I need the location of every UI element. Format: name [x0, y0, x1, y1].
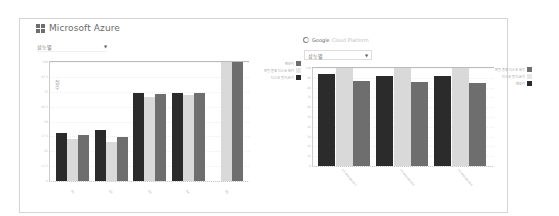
legend-item[interactable]: 파일·환경·디스크 처리	[495, 67, 532, 72]
y-tick-label: 60	[307, 105, 311, 109]
legend-swatch	[527, 67, 532, 72]
grid-line	[313, 166, 494, 167]
grid-line	[50, 181, 249, 182]
legend-item[interactable]: 메모리	[285, 61, 301, 66]
gcp-title-text: Google	[312, 37, 330, 43]
y-tick-label: 25	[44, 149, 48, 153]
bar[interactable]	[78, 135, 89, 181]
gcp-header: GoogleCloud Platform	[303, 37, 369, 43]
y-tick-label: 87.5	[41, 75, 48, 79]
bar[interactable]	[411, 82, 428, 166]
bar[interactable]	[221, 62, 232, 181]
legend-swatch	[527, 81, 532, 86]
y-tick-label: 62.5	[41, 105, 48, 109]
azure-legend: 메모리파일·환경·디스크 처리디스크 읽기/쓰기	[236, 61, 301, 80]
bar[interactable]	[353, 81, 370, 166]
google-cloud-logo-icon	[303, 37, 309, 43]
azure-bar-chart: 012.52537.55062.57587.5100점수A1A2A3A4A5	[49, 61, 249, 182]
bar[interactable]	[434, 76, 451, 166]
gcp-bar-chart: 0102030405060708090100점수n1-standard-1n1-…	[312, 67, 494, 167]
legend-item[interactable]: 디스크 읽기/쓰기	[502, 74, 532, 79]
bar[interactable]	[318, 74, 335, 166]
bar[interactable]	[106, 142, 117, 181]
bar[interactable]	[67, 139, 78, 181]
azure-metric-dropdown[interactable]: 성능별 ▼	[37, 42, 107, 52]
y-tick-label: 0	[309, 164, 311, 168]
legend-item[interactable]: 메모리	[516, 81, 532, 86]
y-tick-label: 70	[307, 95, 311, 99]
y-tick-label: 90	[307, 76, 311, 80]
grid-line	[50, 77, 249, 78]
bar[interactable]	[155, 94, 166, 181]
y-tick-label: 40	[307, 125, 311, 129]
bar[interactable]	[133, 93, 144, 181]
bar[interactable]	[194, 93, 205, 181]
y-tick-label: 50	[44, 120, 48, 124]
bar[interactable]	[336, 68, 353, 166]
y-tick-label: 100	[305, 66, 311, 70]
legend-label: 파일·환경·디스크 처리	[495, 68, 525, 72]
bar[interactable]	[117, 137, 128, 181]
y-tick-label: 30	[307, 135, 311, 139]
bar[interactable]	[95, 130, 106, 181]
gcp-legend: 파일·환경·디스크 처리디스크 읽기/쓰기메모리	[476, 67, 532, 86]
legend-swatch	[296, 61, 301, 66]
grid-line	[50, 62, 249, 63]
legend-item[interactable]: 디스크 읽기/쓰기	[271, 75, 301, 80]
azure-header: Microsoft Azure	[36, 23, 120, 33]
y-axis-label: 점수	[53, 80, 60, 90]
y-tick-label: 50	[307, 115, 311, 119]
legend-swatch	[296, 68, 301, 73]
legend-swatch	[296, 75, 301, 80]
legend-swatch	[527, 74, 532, 79]
legend-label: 파일·환경·디스크 처리	[264, 69, 294, 73]
bar[interactable]	[172, 93, 183, 181]
y-tick-label: 20	[307, 144, 311, 148]
gcp-subtitle: Cloud Platform	[332, 37, 369, 43]
gcp-dropdown-value: 성능별	[308, 52, 323, 59]
bar[interactable]	[452, 68, 469, 166]
grid-line	[50, 92, 249, 93]
legend-label: 디스크 읽기/쓰기	[502, 75, 525, 79]
legend-label: 디스크 읽기/쓰기	[271, 76, 294, 80]
bar[interactable]	[183, 95, 194, 181]
bar[interactable]	[469, 83, 486, 166]
y-tick-label: 80	[307, 86, 311, 90]
bar[interactable]	[376, 76, 393, 166]
bar[interactable]	[144, 97, 155, 181]
y-tick-label: 37.5	[41, 134, 48, 138]
y-tick-label: 0	[46, 179, 48, 183]
gcp-metric-dropdown[interactable]: 성능별 ▼	[304, 50, 372, 60]
bar[interactable]	[394, 68, 411, 166]
bar[interactable]	[56, 133, 67, 181]
legend-item[interactable]: 파일·환경·디스크 처리	[264, 68, 301, 73]
chevron-down-icon: ▼	[365, 53, 368, 58]
y-tick-label: 12.5	[41, 164, 48, 168]
chevron-down-icon: ▼	[104, 44, 107, 49]
y-tick-label: 100	[42, 60, 48, 64]
y-tick-label: 10	[307, 154, 311, 158]
windows-logo-icon	[36, 24, 45, 33]
legend-label: 메모리	[516, 82, 525, 86]
y-tick-label: 75	[44, 90, 48, 94]
azure-title: Microsoft Azure	[49, 23, 120, 33]
legend-label: 메모리	[285, 62, 294, 66]
azure-dropdown-value: 성능별	[37, 43, 52, 50]
gcp-title: GoogleCloud Platform	[312, 37, 369, 43]
